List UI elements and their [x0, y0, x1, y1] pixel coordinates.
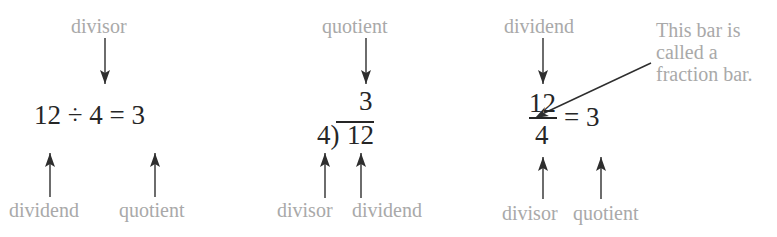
label-divisor: divisor: [502, 203, 558, 223]
arrow-down-icon: [538, 38, 548, 84]
fraction-equals-result: = 3: [564, 104, 599, 131]
label-dividend: dividend: [9, 200, 79, 220]
label-dividend: dividend: [352, 200, 422, 220]
label-quotient: quotient: [322, 16, 388, 36]
fraction-denominator: 4: [535, 122, 549, 149]
label-quotient: quotient: [573, 203, 639, 223]
arrow-up-icon: [320, 153, 330, 198]
long-division-divisor: 4): [317, 122, 340, 149]
label-divisor: divisor: [71, 16, 127, 36]
arrow-up-icon: [356, 153, 366, 198]
fraction-numerator: 12: [529, 90, 556, 117]
note-line: called a: [656, 41, 753, 63]
arrow-down-icon: [100, 38, 110, 84]
label-quotient: quotient: [119, 200, 185, 220]
long-division-quotient: 3: [359, 88, 373, 115]
arrow-up-icon: [538, 157, 548, 199]
note-line: fraction bar.: [656, 63, 753, 85]
arrow-up-icon: [150, 153, 160, 197]
fraction-bar-note: This bar is called a fraction bar.: [656, 19, 753, 85]
arrow-up-icon: [596, 157, 606, 199]
long-division-dividend: 12: [347, 122, 374, 149]
division-notation-diagram: divisor 12 ÷ 4 = 3 dividend quotient quo…: [0, 0, 777, 237]
arrow-down-icon: [361, 38, 371, 84]
label-dividend: dividend: [504, 16, 574, 36]
arrow-up-icon: [45, 153, 55, 197]
division-equation: 12 ÷ 4 = 3: [34, 102, 145, 129]
fraction-bar: [529, 117, 557, 119]
note-line: This bar is: [656, 19, 753, 41]
label-divisor: divisor: [277, 200, 333, 220]
